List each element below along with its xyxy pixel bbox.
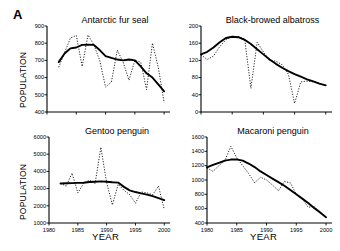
ytick-label-fur-seal: 400 [21,109,44,115]
ytick-label-gentoo: 5000 [23,151,46,157]
ytick-label-gentoo: 3000 [23,185,46,191]
ytick-label-fur-seal: 600 [21,74,44,80]
chart-macaroni [205,137,333,226]
ytick-label-macaroni: 1600 [181,134,204,140]
xtick-label-gentoo: 1990 [96,227,118,233]
ytick-label-albatross: 80 [175,74,198,80]
series-observed-fur-seal [59,35,164,103]
series-observed-gentoo [61,147,165,209]
chart-title-fur-seal: Antarctic fur seal [50,15,180,25]
ytick-label-gentoo: 1000 [23,220,46,226]
chart-title-macaroni: Macaroni penguin [208,126,338,136]
ytick-label-macaroni: 600 [181,205,204,211]
xtick-label-gentoo: 1980 [38,227,60,233]
ytick-label-macaroni: 1400 [181,148,204,154]
ytick-label-albatross: 40 [175,92,198,98]
chart-title-gentoo: Gentoo penguin [52,126,182,136]
xtick-label-gentoo: 1995 [124,227,146,233]
series-observed-albatross [201,36,326,103]
ytick-label-gentoo: 2000 [23,203,46,209]
ytick-label-macaroni: 800 [181,191,204,197]
chart-fur-seal [45,26,171,115]
ytick-label-fur-seal: 800 [21,40,44,46]
ytick-label-albatross: 120 [175,57,198,63]
series-smoothed-trend-fur-seal [59,45,164,92]
xtick-label-macaroni: 1985 [226,227,248,233]
xtick-label-macaroni: 2000 [315,227,337,233]
ytick-label-albatross: 200 [175,23,198,29]
ytick-label-fur-seal: 900 [21,23,44,29]
xtick-label-gentoo: 1985 [67,227,89,233]
panel-label-a: A [13,7,22,22]
ytick-label-macaroni: 1200 [181,162,204,168]
ytick-label-gentoo: 6000 [23,134,46,140]
series-smoothed-trend-albatross [201,37,326,86]
ytick-label-fur-seal: 700 [21,57,44,63]
series-smoothed-trend-macaroni [207,159,326,217]
xtick-label-gentoo: 2000 [153,227,175,233]
chart-gentoo [47,137,171,226]
chart-albatross [199,26,333,115]
ytick-label-albatross: 160 [175,40,198,46]
series-smoothed-trend-gentoo [61,181,165,200]
ytick-label-gentoo: 4000 [23,168,46,174]
xtick-label-macaroni: 1995 [285,227,307,233]
ytick-label-macaroni: 400 [181,220,204,226]
ytick-label-fur-seal: 500 [21,92,44,98]
series-observed-macaroni [207,146,326,217]
xtick-label-macaroni: 1980 [196,227,218,233]
ytick-label-macaroni: 1000 [181,177,204,183]
xtick-label-macaroni: 1990 [256,227,278,233]
ytick-label-albatross: 0 [175,109,198,115]
chart-title-albatross: Black-browed albatross [205,15,340,25]
figure-panel-a: A POPULATION POPULATION Antarctic fur se… [0,0,340,251]
